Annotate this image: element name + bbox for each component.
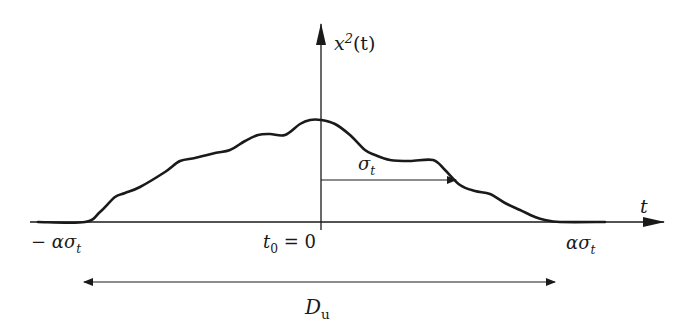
y-axis-label-arg: (t)	[353, 32, 375, 54]
duration-label-base: D	[305, 295, 321, 319]
right-limit-sub: t	[590, 243, 595, 257]
sigma-label-sub: t	[370, 164, 375, 178]
duration-label-sub: u	[321, 306, 330, 322]
left-limit-label: − ασt	[31, 233, 81, 255]
center-label-rest: = 0	[278, 231, 316, 252]
x-axis-label: t	[640, 197, 648, 216]
y-axis-label: x2(t)	[334, 33, 375, 53]
sigma-label-base: σ	[358, 153, 370, 174]
duration-label: Du	[305, 297, 330, 322]
right-limit-prefix: ασ	[566, 232, 590, 253]
signal-duration-diagram: x2(t) t − ασt t0 = 0 ασt σt Du	[0, 0, 680, 336]
center-label-sub: 0	[270, 242, 278, 256]
left-limit-sub: t	[76, 242, 81, 256]
sigma-label: σt	[358, 155, 375, 177]
left-limit-prefix: − ασ	[31, 231, 76, 252]
right-limit-label: ασt	[566, 234, 595, 256]
center-label: t0 = 0	[263, 233, 316, 255]
y-axis-label-base: x	[334, 32, 345, 54]
y-axis-label-exponent: 2	[345, 31, 353, 46]
